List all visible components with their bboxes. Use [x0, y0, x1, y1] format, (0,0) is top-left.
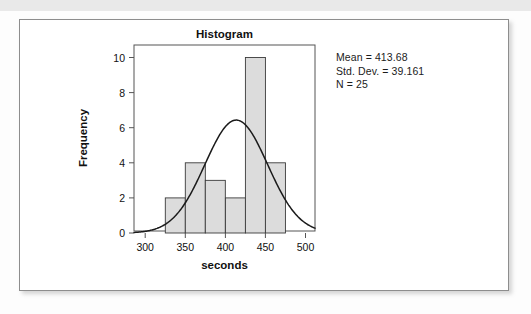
stat-mean: Mean = 413.68 — [336, 51, 496, 65]
histogram-bar — [245, 58, 265, 234]
x-tick-350: 350 — [177, 233, 195, 253]
stat-n: N = 25 — [336, 78, 496, 92]
chart-title: Histogram — [196, 28, 253, 40]
x-tick-400: 400 — [217, 233, 235, 253]
x-tick-label-450: 450 — [257, 241, 275, 253]
stat-std-dev: Std. Dev. = 39.161 — [336, 65, 496, 79]
x-axis-title: seconds — [201, 259, 248, 271]
y-tick-label-0: 0 — [119, 227, 125, 239]
y-axis: 10 8 6 4 2 — [113, 52, 134, 240]
y-tick-4: 4 — [119, 157, 134, 169]
histogram-bar — [205, 180, 225, 233]
y-tick-label-8: 8 — [119, 87, 125, 99]
y-tick-2: 2 — [119, 192, 134, 204]
x-tick-label-400: 400 — [217, 241, 235, 253]
x-tick-450: 450 — [257, 233, 275, 253]
y-tick-10: 10 — [113, 52, 134, 64]
histogram-figure-card: Histogram 10 8 6 4 — [19, 19, 509, 291]
x-tick-label-500: 500 — [297, 241, 315, 253]
x-axis: 300 350 400 450 500 — [136, 233, 314, 253]
statistics-annotation: Mean = 413.68 Std. Dev. = 39.161 N = 25 — [336, 51, 496, 92]
y-tick-6: 6 — [119, 122, 134, 134]
x-tick-label-350: 350 — [177, 241, 195, 253]
y-tick-8: 8 — [119, 87, 134, 99]
y-tick-label-4: 4 — [119, 157, 125, 169]
x-tick-300: 300 — [136, 233, 154, 253]
y-axis-title: Frequency — [77, 108, 89, 167]
x-tick-label-300: 300 — [136, 241, 154, 253]
top-gray-band — [0, 0, 531, 11]
y-tick-label-6: 6 — [119, 122, 125, 134]
histogram-bar — [225, 198, 245, 233]
x-tick-500: 500 — [297, 233, 315, 253]
y-tick-label-2: 2 — [119, 192, 125, 204]
y-tick-0: 0 — [119, 227, 134, 239]
y-tick-label-10: 10 — [113, 52, 125, 64]
histogram-bar — [265, 163, 285, 233]
